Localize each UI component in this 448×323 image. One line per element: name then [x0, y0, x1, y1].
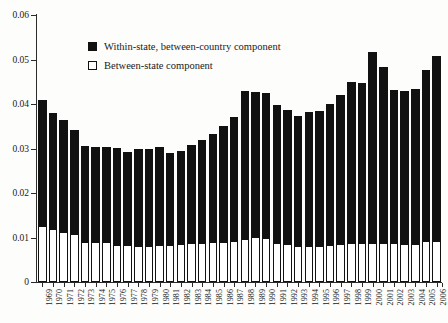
bar-segment-between-state	[358, 243, 367, 282]
x-axis-tick	[192, 283, 193, 287]
bar-segment-within-state	[336, 95, 345, 244]
x-axis-tick-label: 1976	[120, 289, 128, 305]
bar-segment-between-state	[70, 234, 79, 282]
x-axis-tick-label: 1981	[173, 289, 181, 305]
bar-segment-within-state	[91, 147, 100, 242]
bar-segment-between-state	[81, 242, 90, 282]
y-axis-tick-label: 0.01	[0, 233, 29, 243]
x-axis-tick	[266, 283, 267, 287]
bar-2005	[422, 70, 431, 282]
x-axis-tick-label: 1994	[312, 289, 320, 305]
bar-segment-between-state	[432, 241, 441, 282]
y-axis-tick-label: 0.02	[0, 188, 29, 198]
x-axis-tick	[128, 283, 129, 287]
chart-figure: 00.010.020.030.040.050.06 19691970197119…	[0, 0, 448, 323]
x-axis-tick	[298, 283, 299, 287]
bar-1982	[177, 151, 186, 282]
bar-1971	[59, 120, 68, 282]
chart-legend: Within-state, between-country component …	[88, 38, 338, 76]
bar-2004	[411, 89, 420, 282]
bar-segment-within-state	[166, 153, 175, 245]
bar-1994	[305, 112, 314, 282]
bar-segment-between-state	[102, 242, 111, 282]
x-axis-tick	[415, 283, 416, 287]
bar-segment-within-state	[283, 110, 292, 244]
x-axis-tick-label: 1996	[333, 289, 341, 305]
bar-1992	[283, 110, 292, 282]
bar-segment-between-state	[134, 246, 143, 282]
bar-2000	[368, 52, 377, 283]
bar-2002	[390, 90, 399, 282]
bar-segment-within-state	[347, 82, 356, 244]
x-axis-tick	[149, 283, 150, 287]
x-axis-tick-label: 1977	[131, 289, 139, 305]
bar-segment-within-state	[230, 117, 239, 241]
x-axis-tick-label: 1987	[237, 289, 245, 305]
bar-segment-between-state	[241, 239, 250, 282]
bar-1999	[358, 83, 367, 282]
bar-segment-between-state	[390, 243, 399, 282]
bar-1998	[347, 82, 356, 282]
filled-square-icon	[88, 42, 97, 51]
bar-segment-between-state	[59, 232, 68, 282]
bar-segment-between-state	[326, 245, 335, 282]
x-axis-tick	[319, 283, 320, 287]
bar-segment-between-state	[305, 246, 314, 282]
bar-segment-between-state	[155, 245, 164, 282]
bar-segment-between-state	[273, 243, 282, 282]
x-axis-tick-label: 1969	[46, 289, 54, 305]
x-axis-tick-label: 1988	[248, 289, 256, 305]
bar-segment-within-state	[187, 145, 196, 244]
bar-segment-within-state	[358, 83, 367, 243]
bar-segment-within-state	[411, 89, 420, 244]
bar-segment-between-state	[219, 242, 228, 282]
bar-segment-within-state	[305, 112, 314, 246]
x-axis-tick	[170, 283, 171, 287]
x-axis-line	[36, 282, 442, 283]
x-axis-tick	[181, 283, 182, 287]
bar-1970	[49, 113, 58, 282]
x-axis-tick	[351, 283, 352, 287]
bar-segment-between-state	[145, 246, 154, 282]
bar-segment-between-state	[411, 244, 420, 282]
x-axis-tick-label: 1993	[301, 289, 309, 305]
bar-1987	[230, 117, 239, 282]
x-axis-tick-label: 1998	[355, 289, 363, 305]
bar-1991	[273, 105, 282, 282]
bar-1976	[113, 148, 122, 282]
bar-segment-between-state	[262, 238, 271, 282]
bar-segment-within-state	[251, 92, 260, 237]
x-axis-tick	[341, 283, 342, 287]
bar-segment-between-state	[123, 245, 132, 282]
bar-segment-within-state	[113, 148, 122, 245]
x-axis-tick-label: 2003	[408, 289, 416, 305]
bar-segment-within-state	[422, 70, 431, 241]
bar-segment-within-state	[219, 126, 228, 241]
x-axis-tick-label: 1978	[141, 289, 149, 305]
bar-1979	[145, 149, 154, 282]
bar-segment-between-state	[315, 246, 324, 282]
bar-1984	[198, 140, 207, 282]
bar-segment-within-state	[177, 151, 186, 244]
bar-1996	[326, 104, 335, 282]
bar-segment-between-state	[198, 243, 207, 282]
bar-segment-between-state	[422, 241, 431, 282]
x-axis-tick-label: 2004	[419, 289, 427, 305]
bar-segment-within-state	[81, 146, 90, 241]
bar-segment-within-state	[315, 111, 324, 246]
x-axis-tick-label: 1970	[56, 289, 64, 305]
x-axis-tick	[234, 283, 235, 287]
x-axis-tick	[287, 283, 288, 287]
bar-segment-within-state	[38, 100, 47, 226]
bar-1983	[187, 145, 196, 283]
bar-segment-between-state	[230, 241, 239, 282]
bar-segment-within-state	[209, 134, 218, 242]
hollow-square-icon	[88, 61, 97, 70]
x-axis-tick	[405, 283, 406, 287]
bar-1989	[251, 92, 260, 282]
legend-label: Within-state, between-country component	[104, 41, 281, 52]
x-axis-tick-label: 1982	[184, 289, 192, 305]
bar-segment-within-state	[432, 56, 441, 241]
x-axis-tick-label: 1975	[109, 289, 117, 305]
bar-segment-between-state	[166, 245, 175, 282]
